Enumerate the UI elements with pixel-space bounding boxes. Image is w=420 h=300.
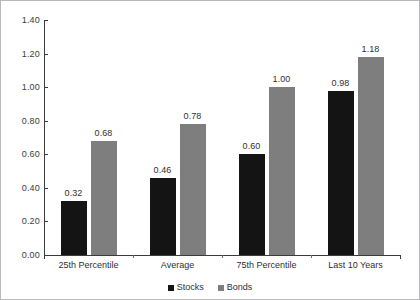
bar-value-label-bonds-1: 0.78 — [174, 112, 212, 121]
bar-stocks-2 — [239, 154, 265, 255]
y-axis-tick — [44, 87, 48, 88]
bar-value-label-bonds-2: 1.00 — [263, 75, 301, 84]
y-axis-tick — [44, 121, 48, 122]
bar-value-label-stocks-3: 0.98 — [322, 79, 360, 88]
y-axis-tick — [44, 20, 48, 21]
y-axis-tick-label: 1.20 — [4, 50, 40, 59]
y-axis-tick-label: 1.00 — [4, 83, 40, 92]
y-axis-tick-label: 0.00 — [4, 251, 40, 260]
x-axis-group-tick — [311, 255, 312, 258]
y-axis-tick-label: 1.40 — [4, 16, 40, 25]
bar-stocks-0 — [61, 201, 87, 255]
bar-stocks-1 — [150, 178, 176, 255]
bar-value-label-stocks-0: 0.32 — [55, 189, 93, 198]
y-axis-tick — [44, 154, 48, 155]
y-axis-tick — [44, 221, 48, 222]
legend-swatch-stocks-icon — [168, 285, 174, 291]
bar-chart: 0.000.200.400.600.801.001.201.40 0.320.6… — [0, 0, 420, 300]
y-axis-tick-label: 0.60 — [4, 150, 40, 159]
x-axis-start-tick — [44, 255, 45, 259]
x-axis-group-tick — [133, 255, 134, 258]
legend-swatch-bonds-icon — [218, 285, 224, 291]
x-axis-category-label-1: Average — [133, 261, 222, 270]
y-axis-tick — [44, 188, 48, 189]
y-axis-tick-label: 0.20 — [4, 217, 40, 226]
x-axis-end-tick — [400, 255, 401, 259]
bar-stocks-3 — [328, 91, 354, 256]
legend-item-stocks: Stocks — [168, 283, 204, 292]
bar-bonds-2 — [269, 87, 295, 255]
legend-label-stocks: Stocks — [177, 283, 204, 292]
legend-label-bonds: Bonds — [227, 283, 253, 292]
bar-value-label-bonds-0: 0.68 — [85, 129, 123, 138]
chart-screenshot: 0.000.200.400.600.801.001.201.40 0.320.6… — [0, 0, 420, 300]
x-axis-category-label-3: Last 10 Years — [311, 261, 400, 270]
y-axis-tick-label: 0.80 — [4, 117, 40, 126]
y-axis-tick — [44, 54, 48, 55]
x-axis-category-label-2: 75th Percentile — [222, 261, 311, 270]
chart-legend: Stocks Bonds — [0, 283, 420, 292]
legend-item-bonds: Bonds — [218, 283, 253, 292]
bar-bonds-3 — [358, 57, 384, 255]
bar-value-label-stocks-2: 0.60 — [233, 142, 271, 151]
bar-value-label-stocks-1: 0.46 — [144, 166, 182, 175]
bar-bonds-1 — [180, 124, 206, 255]
y-axis-tick-label: 0.40 — [4, 184, 40, 193]
bar-bonds-0 — [91, 141, 117, 255]
bar-value-label-bonds-3: 1.18 — [352, 45, 390, 54]
x-axis-category-label-0: 25th Percentile — [44, 261, 133, 270]
x-axis-group-tick — [222, 255, 223, 258]
